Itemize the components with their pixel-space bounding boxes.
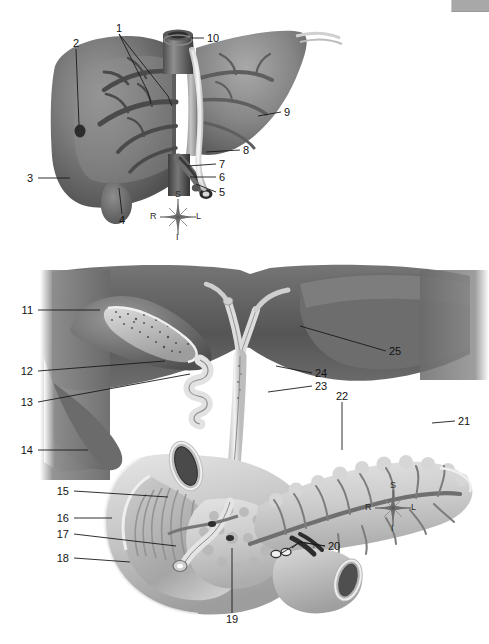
callout-label-14: 14 xyxy=(21,445,33,456)
callout-label-1: 1 xyxy=(116,23,122,34)
compass-right-label: R xyxy=(150,211,157,221)
callout-label-25: 25 xyxy=(389,346,401,357)
callout-label-21: 21 xyxy=(458,416,470,427)
compass-left-label: L xyxy=(411,502,416,512)
callout-label-20: 20 xyxy=(328,541,340,552)
callout-label-3: 3 xyxy=(27,173,33,184)
callout-label-13: 13 xyxy=(21,397,33,408)
callout-label-22: 22 xyxy=(336,391,348,402)
orientation-compass-bottom: SIRL xyxy=(363,482,423,534)
callout-label-7: 7 xyxy=(219,159,225,170)
callout-label-11: 11 xyxy=(22,305,33,316)
compass-inferior-label: I xyxy=(176,232,179,242)
gallbladder-pancreas-duodenum-illustration xyxy=(0,262,489,644)
figure-page: 1234567891011121314151617181920212223242… xyxy=(0,0,489,644)
callout-label-10: 10 xyxy=(207,33,219,44)
compass-right-label: R xyxy=(365,502,372,512)
callout-label-24: 24 xyxy=(315,368,327,379)
callout-label-12: 12 xyxy=(21,366,33,377)
callout-label-19: 19 xyxy=(226,614,238,625)
compass-superior-label: S xyxy=(175,189,181,199)
callout-label-17: 17 xyxy=(57,529,69,540)
callout-label-16: 16 xyxy=(57,513,69,524)
callout-label-23: 23 xyxy=(315,381,327,392)
callout-label-18: 18 xyxy=(57,553,69,564)
compass-inferior-label: I xyxy=(391,523,394,533)
callout-label-4: 4 xyxy=(119,215,125,226)
callout-label-2: 2 xyxy=(73,38,79,49)
compass-left-label: L xyxy=(196,211,201,221)
callout-label-8: 8 xyxy=(243,145,249,156)
callout-label-9: 9 xyxy=(284,107,290,118)
callout-label-15: 15 xyxy=(57,486,69,497)
orientation-compass-top: SIRL xyxy=(148,191,208,243)
compass-superior-label: S xyxy=(390,480,396,490)
callout-label-6: 6 xyxy=(219,172,225,183)
callout-label-5: 5 xyxy=(219,187,225,198)
